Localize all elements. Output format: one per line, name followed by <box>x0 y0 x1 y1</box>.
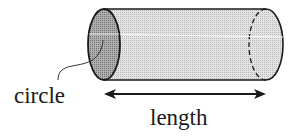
circle-label: circle <box>14 83 65 108</box>
circle-end-cap <box>88 9 120 80</box>
cylinder-body <box>104 9 283 80</box>
cylinder-diagram: circle length <box>0 0 296 138</box>
length-label: length <box>150 105 208 130</box>
